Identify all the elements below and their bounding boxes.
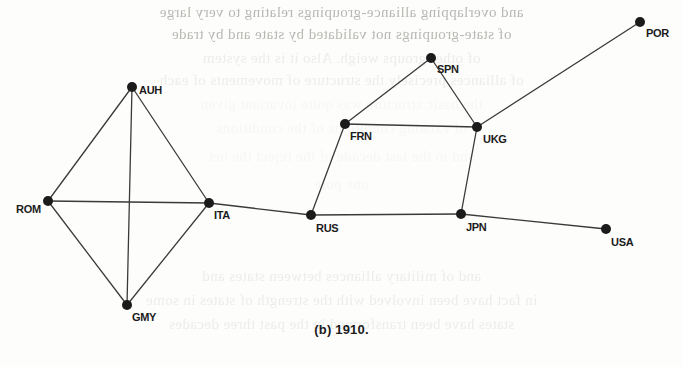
figure-caption: (b) 1910.	[0, 322, 683, 337]
graph-node-USA	[601, 224, 611, 234]
graph-node-ITA	[204, 198, 214, 208]
network-graph: AUHROMITAGMYRUSFRNSPNUKGJPNPORUSA	[0, 0, 683, 367]
graph-node-label-SPN: SPN	[437, 64, 459, 75]
graph-node-label-AUH: AUH	[139, 85, 162, 96]
graph-edge-AUH-ROM	[48, 87, 132, 201]
graph-node-label-UKG: UKG	[483, 134, 507, 145]
graph-edge-RUS-FRN	[311, 124, 345, 215]
graph-node-label-JPN: JPN	[466, 222, 487, 233]
graph-node-FRN	[340, 119, 350, 129]
graph-edge-AUH-ITA	[132, 87, 209, 203]
graph-edges-layer	[0, 0, 683, 367]
graph-edge-ROM-ITA	[48, 201, 209, 203]
graph-edge-RUS-JPN	[311, 214, 461, 215]
graph-node-label-RUS: RUS	[316, 223, 338, 234]
graph-node-GMY	[122, 300, 132, 310]
graph-edge-ITA-GMY	[127, 203, 209, 305]
graph-node-label-USA: USA	[611, 237, 633, 248]
graph-node-label-POR: POR	[646, 28, 669, 39]
graph-node-SPN	[426, 53, 436, 63]
graph-node-UKG	[472, 122, 482, 132]
graph-node-label-ROM: ROM	[16, 204, 41, 215]
graph-edge-FRN-SPN	[345, 58, 431, 124]
graph-node-label-ITA: ITA	[214, 210, 230, 221]
graph-node-AUH	[127, 82, 137, 92]
graph-edge-UKG-POR	[477, 22, 640, 127]
graph-edge-ROM-GMY	[48, 201, 127, 305]
graph-edge-FRN-UKG	[345, 124, 477, 127]
graph-edge-UKG-JPN	[461, 127, 477, 214]
graph-node-label-FRN: FRN	[350, 131, 372, 142]
figure-page: and overlapping alliance-groupings relat…	[0, 0, 683, 367]
graph-node-POR	[635, 17, 645, 27]
graph-edge-AUH-GMY	[127, 87, 132, 305]
graph-node-RUS	[306, 210, 316, 220]
graph-node-ROM	[43, 196, 53, 206]
graph-node-JPN	[456, 209, 466, 219]
